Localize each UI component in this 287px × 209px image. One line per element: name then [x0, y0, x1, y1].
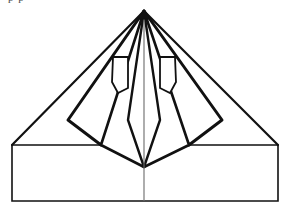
origami-diagram-figure: p p: [0, 0, 287, 209]
left-flap-tab: [112, 57, 128, 93]
right-flap-tab-group: [160, 57, 176, 93]
right-flap-tab: [160, 57, 176, 93]
origami-line-art-svg: [0, 0, 287, 209]
left-flap-tab-group: [112, 57, 128, 93]
